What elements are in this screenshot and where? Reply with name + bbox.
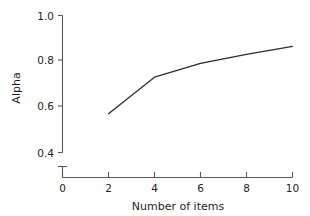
data-series-alpha [109, 46, 293, 113]
x-tick-label-10: 10 [286, 182, 299, 194]
x-tick-label-8: 8 [243, 182, 250, 194]
x-tick-label-6: 6 [197, 182, 204, 194]
y-tick-label-0.4: 0.4 [37, 147, 54, 159]
line-chart-plot: 1.0 0.8 0.6 0.4 Alpha 0 2 4 6 8 10 Nu [0, 0, 310, 216]
chart-container: 1.0 0.8 0.6 0.4 Alpha 0 2 4 6 8 10 Nu [0, 0, 310, 216]
y-axis-group: 1.0 0.8 0.6 0.4 Alpha [10, 10, 67, 178]
x-axis-group: 0 2 4 6 8 10 Number of items [59, 172, 299, 213]
x-axis-title: Number of items [132, 200, 225, 213]
x-tick-label-0: 0 [59, 182, 66, 194]
y-tick-label-0.6: 0.6 [37, 100, 54, 112]
y-axis-title: Alpha [10, 72, 23, 103]
x-tick-label-2: 2 [105, 182, 112, 194]
y-tick-label-0.8: 0.8 [37, 54, 54, 66]
x-tick-label-4: 4 [151, 182, 158, 194]
y-tick-label-1.0: 1.0 [37, 10, 54, 22]
